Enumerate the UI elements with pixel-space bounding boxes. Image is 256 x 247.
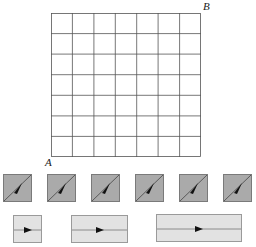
grid-lines [51, 13, 201, 157]
label-a: A [45, 156, 52, 168]
arrow-diagonal-icon [4, 175, 31, 201]
arrow-right-icon [14, 216, 41, 242]
diagonal-tile[interactable] [3, 174, 32, 202]
diagonal-tile[interactable] [179, 174, 208, 202]
straight-tile-3[interactable] [156, 214, 242, 242]
arrow-diagonal-icon [92, 175, 119, 201]
arrow-diagonal-icon [180, 175, 207, 201]
label-b: B [203, 0, 210, 12]
grid [51, 13, 201, 157]
arrow-right-icon [157, 215, 241, 241]
diagonal-tile[interactable] [223, 174, 252, 202]
diagonal-tile[interactable] [47, 174, 76, 202]
arrow-diagonal-icon [224, 175, 251, 201]
diagonal-tile[interactable] [135, 174, 164, 202]
straight-tile-2[interactable] [71, 215, 128, 243]
arrow-right-icon [72, 216, 127, 242]
arrow-diagonal-icon [48, 175, 75, 201]
straight-tile-1[interactable] [13, 215, 42, 243]
diagonal-tile[interactable] [91, 174, 120, 202]
arrow-diagonal-icon [136, 175, 163, 201]
